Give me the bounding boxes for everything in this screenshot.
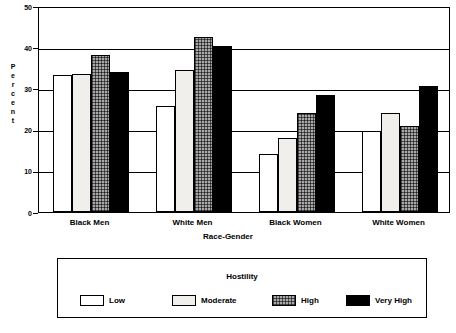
bar	[297, 113, 316, 212]
legend-item[interactable]: Moderate	[172, 292, 237, 308]
legend-swatch-icon	[272, 295, 296, 306]
legend-label: High	[301, 296, 319, 305]
bar	[259, 154, 278, 213]
bar	[156, 106, 175, 212]
gridline	[39, 49, 449, 50]
y-tick-mark	[33, 172, 38, 173]
y-tick-label: 50	[24, 4, 32, 11]
bar	[175, 70, 194, 212]
x-tick-label: Black Men	[38, 218, 141, 227]
legend-items: LowModerateHighVery High	[58, 292, 426, 310]
y-tick-mark	[33, 89, 38, 90]
bar-chart-figure: P e r c e n t 01020304050 Black MenWhite…	[0, 0, 456, 333]
y-axis-ticks: 01020304050	[0, 0, 36, 333]
y-tick-mark	[33, 48, 38, 49]
legend-swatch-icon	[172, 295, 196, 306]
bar	[110, 72, 129, 212]
y-tick-mark	[33, 131, 38, 132]
y-tick-label: 40	[24, 45, 32, 52]
y-tick-mark	[33, 213, 38, 214]
y-tick-label: 30	[24, 86, 32, 93]
legend-label: Low	[109, 296, 125, 305]
y-tick-label: 10	[24, 168, 32, 175]
x-tick-label: White Women	[347, 218, 450, 227]
legend-title: Hostility	[58, 272, 426, 281]
bar	[400, 126, 419, 212]
bar	[362, 131, 381, 212]
bar	[72, 74, 91, 212]
x-axis-tick-labels: Black MenWhite MenBlack WomenWhite Women	[38, 218, 450, 232]
y-tick-label: 0	[28, 210, 32, 217]
bar	[381, 113, 400, 212]
legend-item[interactable]: High	[272, 292, 319, 308]
bar	[194, 37, 213, 212]
legend-label: Moderate	[201, 296, 237, 305]
legend-swatch-icon	[80, 295, 104, 306]
legend-item[interactable]: Low	[80, 292, 125, 308]
x-axis-title: Race-Gender	[0, 232, 456, 241]
bar	[91, 55, 110, 212]
bar	[316, 95, 335, 212]
bar	[278, 138, 297, 212]
y-tick-label: 20	[24, 127, 32, 134]
x-tick-label: Black Women	[244, 218, 347, 227]
bar	[213, 46, 232, 212]
legend-swatch-icon	[346, 295, 370, 306]
plot-area	[38, 7, 450, 213]
bar	[53, 75, 72, 212]
y-tick-mark	[33, 7, 38, 8]
legend-label: Very High	[375, 296, 412, 305]
legend-box: Hostility LowModerateHighVery High	[57, 258, 427, 318]
x-tick-label: White Men	[141, 218, 244, 227]
bar	[419, 86, 438, 212]
legend-item[interactable]: Very High	[346, 292, 412, 308]
